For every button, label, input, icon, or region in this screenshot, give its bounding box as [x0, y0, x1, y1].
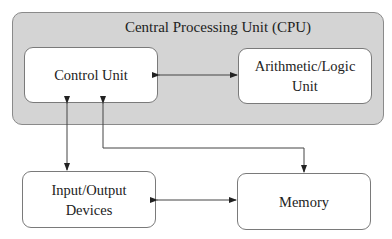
connector-layer — [0, 0, 392, 239]
cu-memory-arrow — [103, 103, 304, 172]
